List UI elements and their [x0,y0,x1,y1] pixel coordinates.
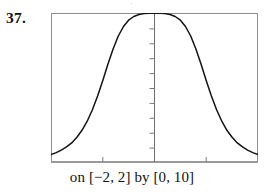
y-axis-ticks [150,29,155,148]
viewing-window-caption: on [−2, 2] by [0, 10] [0,166,264,188]
exercise-number-label: 37. [6,9,26,27]
graph-figure [51,13,258,163]
plot-canvas [51,13,258,163]
scan-top-text-remnant: · [0,0,264,6]
